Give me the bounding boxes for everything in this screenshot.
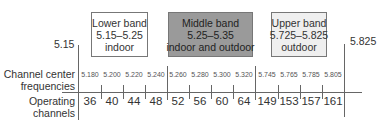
lower-band-box: Lower band 5.15–5.25 indoor [91, 12, 148, 57]
middle-band-range: 5.25–5.35 [187, 29, 234, 41]
channel-label: 60 [211, 95, 233, 107]
channel-label: 149 [256, 95, 278, 107]
channel-label: 40 [101, 95, 123, 107]
upper-band-use: outdoor [281, 41, 317, 53]
channel-label: 36 [79, 95, 101, 107]
channel-label: 161 [322, 95, 344, 107]
channel-label: 157 [300, 95, 322, 107]
channel-label: 64 [233, 95, 255, 107]
right-edge-label: 5.825 [350, 35, 376, 47]
channel-label: 48 [145, 95, 167, 107]
frequency-label: 5.280 [189, 71, 211, 78]
frequencies-label-line2: frequencies [0, 80, 75, 92]
axis-line [62, 92, 362, 93]
frequency-label: 5.220 [123, 71, 145, 78]
channel-label: 56 [189, 95, 211, 107]
upper-band-range: 5.725–5.825 [270, 29, 328, 41]
channel-label: 153 [278, 95, 300, 107]
frequency-label: 5.320 [233, 71, 255, 78]
frequency-label: 5.200 [101, 71, 123, 78]
upper-band-box: Upper band 5.725–5.825 outdoor [271, 12, 327, 57]
lower-band-use: indoor [105, 41, 134, 53]
frequency-label: 5.300 [211, 71, 233, 78]
frequency-label: 5.785 [300, 71, 322, 78]
lower-band-name: Lower band [92, 17, 147, 29]
frequency-label: 5.745 [256, 71, 278, 78]
upper-band-name: Upper band [272, 17, 327, 29]
frequencies-label-line1: Channel center [0, 68, 75, 80]
middle-band-use: indoor and outdoor [166, 41, 254, 53]
frequency-label: 5.180 [79, 71, 101, 78]
middle-band-box: Middle band 5.25–5.35 indoor and outdoor [168, 12, 253, 57]
left-edge-label: 5.15 [54, 38, 74, 50]
frequency-label: 5.260 [167, 71, 189, 78]
left-boundary-line [78, 45, 79, 120]
channels-row-label: Operating channels [0, 95, 75, 119]
middle-band-name: Middle band [182, 17, 239, 29]
frequencies-row-label: Channel center frequencies [0, 68, 75, 92]
frequency-label: 5.765 [278, 71, 300, 78]
channels-label-line2: channels [0, 107, 75, 119]
frequency-label: 5.240 [145, 71, 167, 78]
channel-label: 52 [167, 95, 189, 107]
channels-label-line1: Operating [0, 95, 75, 107]
right-boundary-line [344, 44, 345, 117]
lower-band-range: 5.15–5.25 [96, 29, 143, 41]
channel-label: 44 [123, 95, 145, 107]
frequency-label: 5.805 [322, 71, 344, 78]
